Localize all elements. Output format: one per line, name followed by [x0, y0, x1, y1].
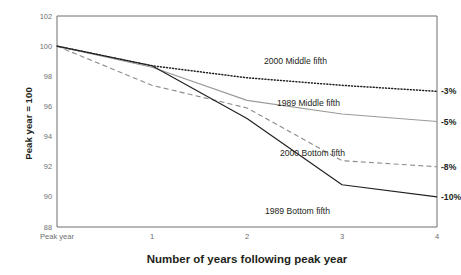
y-tick-label: 98 [26, 72, 52, 81]
x-tick-label: Peak year [40, 232, 74, 241]
series-end-value: -5% [441, 117, 456, 127]
series-label: 1989 Bottom fifth [265, 206, 330, 216]
plot-frame [57, 16, 437, 227]
series-label: 1989 Middle fifth [277, 98, 340, 108]
x-axis-title: Number of years following peak year [57, 253, 437, 265]
series-end-value: -3% [441, 86, 456, 96]
y-tick-label: 96 [26, 102, 52, 111]
x-tick-label: 3 [340, 232, 344, 241]
series-line [57, 46, 437, 167]
series-line [57, 46, 437, 91]
x-tick-label: 2 [245, 232, 249, 241]
y-tick-label: 100 [26, 42, 52, 51]
y-tick-label: 88 [26, 223, 52, 232]
series-label: 2000 Bottom fifth [280, 148, 345, 158]
series-line [57, 46, 437, 197]
y-tick-label: 92 [26, 162, 52, 171]
x-tick-label: 1 [150, 232, 154, 241]
series-end-value: -10% [441, 192, 461, 202]
series-layer [57, 46, 437, 197]
y-tick-label: 94 [26, 132, 52, 141]
series-end-value: -8% [441, 162, 456, 172]
y-tick-label: 102 [26, 12, 52, 21]
x-tick-label: 4 [435, 232, 439, 241]
y-tick-label: 90 [26, 192, 52, 201]
series-label: 2000 Middle fifth [264, 56, 327, 66]
